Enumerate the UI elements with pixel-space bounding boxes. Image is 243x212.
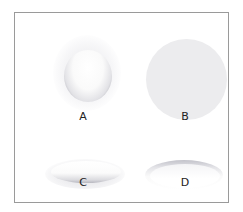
figure-frame: A B C D xyxy=(14,12,229,203)
panel-b-label: B xyxy=(175,110,195,123)
panel-b-disc xyxy=(146,39,227,120)
panel-d-label: D xyxy=(175,176,195,189)
panel-a-label: A xyxy=(73,110,93,123)
panel-c-label: C xyxy=(73,176,93,189)
panel-a-sphere xyxy=(64,50,112,102)
